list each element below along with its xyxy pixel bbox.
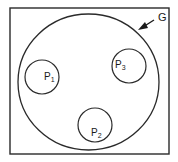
subset-label-p3: P3	[115, 60, 126, 71]
subset-label-p2-main: P	[91, 127, 98, 138]
subset-label-p1-sub: 1	[51, 76, 55, 83]
subset-label-p1: P1	[44, 72, 55, 83]
subset-label-p3-main: P	[115, 59, 122, 70]
subset-label-p3-sub: 3	[122, 64, 126, 71]
subset-label-p2-sub: 2	[98, 132, 102, 139]
container-set-g	[18, 14, 159, 150]
arrow-icon	[138, 20, 154, 30]
subset-label-p1-main: P	[44, 71, 51, 82]
container-label-g: G	[158, 12, 167, 23]
subset-label-p2: P2	[91, 128, 102, 139]
diagram-canvas	[0, 0, 178, 162]
outer-frame	[10, 8, 169, 154]
